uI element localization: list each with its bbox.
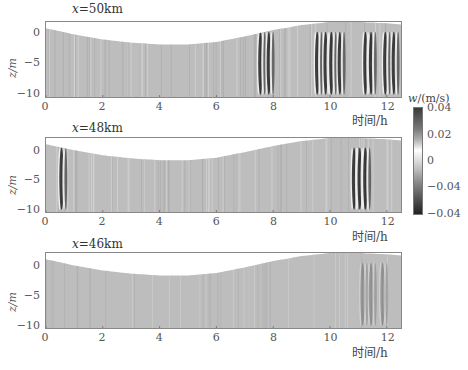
x-tick-4: 4 (149, 215, 169, 228)
panel-2-plot (45, 137, 402, 213)
heatmap-x46 (46, 253, 401, 328)
colorbar-tick-5: −0.04 (427, 207, 461, 220)
x-tick-6: 6 (206, 215, 226, 228)
panel-2-title: x=48km (72, 121, 123, 135)
colorbar-tick-1: 0.04 (427, 101, 452, 114)
colorbar-tick-3: 0 (427, 154, 434, 167)
panel-1-title: x=50km (72, 2, 123, 16)
panel-1-plot (45, 21, 402, 98)
y-tick-minus5: −5 (10, 56, 40, 69)
x-tick-8: 8 (263, 215, 283, 228)
y-tick-minus5: −5 (10, 173, 40, 186)
y-tick-0: 0 (10, 144, 40, 157)
x-tick-6: 6 (206, 331, 226, 344)
y-tick-0: 0 (10, 259, 40, 272)
colorbar-tick-2: 0.02 (427, 128, 452, 141)
x-tick-4: 4 (149, 100, 169, 113)
colorbar (413, 107, 423, 215)
panel-3-plot (45, 252, 402, 329)
x-axis-label-2: 时间/h (352, 227, 388, 244)
heatmap-x50 (46, 22, 401, 97)
x-tick-2: 2 (92, 331, 112, 344)
x-tick-4: 4 (149, 331, 169, 344)
y-tick-minus10: −10 (10, 87, 40, 100)
x-axis-label-3: 时间/h (352, 343, 388, 360)
y-tick-minus5: −5 (10, 289, 40, 302)
x-tick-0: 0 (35, 100, 55, 113)
x-tick-10: 10 (321, 100, 341, 113)
x-tick-10: 10 (321, 215, 341, 228)
x-tick-8: 8 (263, 331, 283, 344)
x-tick-8: 8 (263, 100, 283, 113)
x-tick-6: 6 (206, 100, 226, 113)
x-tick-0: 0 (35, 215, 55, 228)
y-tick-0: 0 (10, 26, 40, 39)
x-axis-label-1: 时间/h (352, 111, 388, 128)
x-tick-2: 2 (92, 100, 112, 113)
panel-3-title: x=46km (72, 237, 123, 251)
colorbar-tick-4: −0.04 (427, 180, 461, 193)
x-tick-2: 2 (92, 215, 112, 228)
x-tick-10: 10 (321, 331, 341, 344)
heatmap-x48 (46, 138, 401, 212)
x-tick-0: 0 (35, 331, 55, 344)
